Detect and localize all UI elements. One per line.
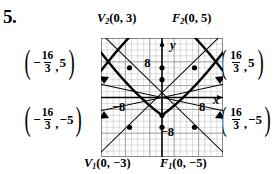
point-vertex-2 xyxy=(159,77,164,82)
y-axis-tick-positive: 8 xyxy=(144,56,150,70)
fraction-denominator: 3 xyxy=(232,119,240,132)
fraction-denominator: 3 xyxy=(44,119,52,132)
problem-number: 5. xyxy=(3,6,16,28)
x-axis-tick-positive: 8 xyxy=(199,100,205,114)
fraction-16-over-3: 16 3 xyxy=(229,50,243,74)
fraction-16-over-3: 16 3 xyxy=(41,107,55,131)
paren-close-icon: ) xyxy=(265,107,271,131)
label-focus-1: F1(0, −5) xyxy=(160,157,207,171)
label-point-bottom-right-y: −5 xyxy=(248,113,262,126)
comma-separator: , xyxy=(55,117,58,130)
point-vertex-1 xyxy=(159,113,164,118)
paren-close-icon: ) xyxy=(76,107,82,131)
label-vertex-1: V1(0, −3) xyxy=(84,157,131,171)
label-point-top-left-sign: − xyxy=(33,56,40,69)
point-latus-bottom-right xyxy=(192,125,197,130)
label-point-bottom-left: ( − 16 3 , −5 ) xyxy=(22,107,85,131)
y-axis-tick-negative: −8 xyxy=(161,125,174,139)
fraction-denominator: 3 xyxy=(44,62,52,75)
paren-open-icon: ( xyxy=(25,50,31,74)
paren-close-icon: ) xyxy=(69,50,75,74)
label-vertex-2: V2(0, 3) xyxy=(97,12,136,26)
fraction-numerator: 16 xyxy=(41,107,55,119)
label-focus-1-coords: (0, −5) xyxy=(172,156,206,170)
graph-plot-area: y x 8 −8 −8 8 xyxy=(101,38,223,157)
point-latus-top-right xyxy=(192,65,197,70)
label-point-top-right-y: 5 xyxy=(248,56,255,69)
x-axis-tick-negative: −8 xyxy=(112,100,125,114)
label-point-top-left: ( − 16 3 , 5 ) xyxy=(22,50,77,74)
label-point-bottom-left-y: −5 xyxy=(60,113,74,126)
point-focus-2 xyxy=(159,65,164,70)
label-vertex-2-coords: (0, 3) xyxy=(109,11,136,25)
fraction-numerator: 16 xyxy=(229,107,243,119)
label-point-bottom-right: ( 16 3 , −5 ) xyxy=(218,107,273,131)
fraction-numerator: 16 xyxy=(41,50,55,62)
fraction-denominator: 3 xyxy=(232,62,240,75)
label-focus-2-coords: (0, 5) xyxy=(184,11,211,25)
figure-root: 5. V2(0, 3) F2(0, 5) V1(0, −3) F1(0, −5)… xyxy=(0,0,277,174)
label-vertex-1-coords: (0, −3) xyxy=(96,156,130,170)
label-point-bottom-left-sign: − xyxy=(33,113,40,126)
label-point-top-right: ( 16 3 , 5 ) xyxy=(218,50,266,74)
paren-close-icon: ) xyxy=(257,50,263,74)
graph-svg: y x 8 −8 −8 8 xyxy=(101,38,223,157)
label-point-top-left-y: 5 xyxy=(60,56,67,69)
x-axis-name: x xyxy=(212,93,219,107)
label-focus-2: F2(0, 5) xyxy=(172,12,211,26)
paren-open-icon: ( xyxy=(25,107,31,131)
comma-separator: , xyxy=(244,117,247,130)
fraction-16-over-3: 16 3 xyxy=(229,107,243,131)
point-latus-bottom-left xyxy=(127,125,132,130)
fraction-16-over-3: 16 3 xyxy=(41,50,55,74)
comma-separator: , xyxy=(244,60,247,73)
comma-separator: , xyxy=(55,60,58,73)
point-latus-top-left xyxy=(127,65,132,70)
fraction-numerator: 16 xyxy=(229,50,243,62)
